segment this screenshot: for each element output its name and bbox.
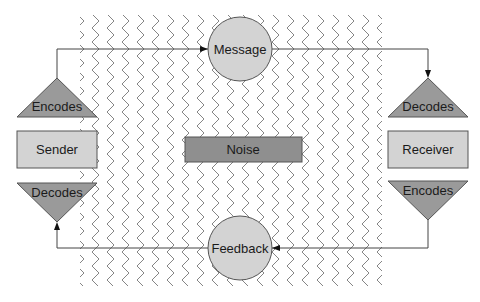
feedback-node: Feedback	[208, 216, 272, 280]
communication-diagram: Message Feedback Encodes Sender Decodes …	[0, 0, 480, 302]
receiver-decodes-label: Decodes	[402, 99, 454, 114]
sender-decodes-label: Decodes	[31, 185, 83, 200]
noise-label: Noise	[226, 142, 259, 157]
receiver-encodes-node: Encodes	[388, 181, 468, 220]
message-node: Message	[208, 17, 272, 81]
arrowhead-icon	[425, 70, 431, 78]
sender-encodes-label: Encodes	[32, 99, 83, 114]
receiver-label: Receiver	[402, 142, 454, 157]
receiver-node: Receiver	[388, 131, 468, 168]
feedback-label: Feedback	[211, 241, 269, 256]
noise-node: Noise	[185, 137, 302, 162]
sender-label: Sender	[36, 142, 79, 157]
receiver-encodes-label: Encodes	[403, 183, 454, 198]
sender-node: Sender	[17, 131, 97, 168]
message-label: Message	[214, 42, 267, 57]
receiver-decodes-node: Decodes	[388, 78, 468, 117]
arrowhead-icon	[54, 222, 60, 230]
